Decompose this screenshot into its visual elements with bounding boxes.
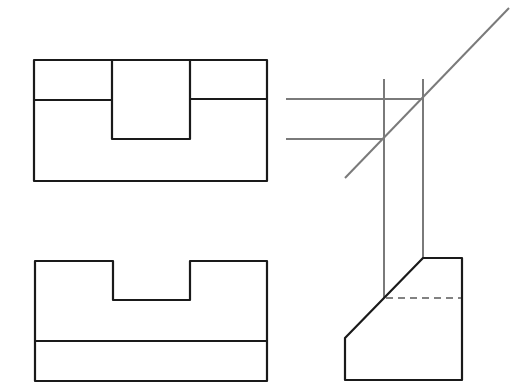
miter-line xyxy=(345,8,509,178)
projection-drawing xyxy=(0,0,528,392)
side-view-outline xyxy=(345,258,462,380)
top-view xyxy=(34,60,267,181)
construction-lines xyxy=(286,8,509,298)
front-view xyxy=(35,261,267,381)
front-view-outline xyxy=(35,261,267,381)
top-view-outline xyxy=(34,60,267,181)
top-view-slot xyxy=(112,60,190,139)
side-view xyxy=(345,258,462,380)
